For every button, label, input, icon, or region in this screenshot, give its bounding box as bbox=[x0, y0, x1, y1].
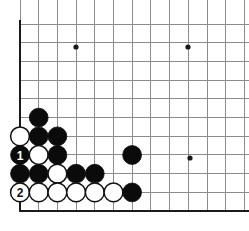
stone-white[interactable] bbox=[11, 127, 30, 146]
move-number-label: 2 bbox=[17, 186, 24, 200]
star-point-lower-right-icon bbox=[187, 155, 192, 160]
stone-black[interactable] bbox=[85, 164, 104, 183]
stone-black[interactable]: 1 bbox=[11, 146, 30, 165]
black-stone[interactable] bbox=[123, 146, 142, 165]
black-stone[interactable] bbox=[67, 164, 86, 183]
stone-black[interactable] bbox=[67, 164, 86, 183]
stone-black[interactable] bbox=[11, 164, 30, 183]
white-stone[interactable] bbox=[104, 183, 123, 202]
white-stone[interactable] bbox=[29, 183, 48, 202]
black-stone[interactable] bbox=[29, 108, 48, 127]
stone-black[interactable] bbox=[29, 108, 48, 127]
stone-white[interactable] bbox=[48, 183, 67, 202]
black-stone[interactable] bbox=[48, 127, 67, 146]
white-stone[interactable] bbox=[48, 164, 67, 183]
stone-black[interactable] bbox=[48, 146, 67, 165]
black-stone[interactable] bbox=[85, 164, 104, 183]
stone-white[interactable]: 2 bbox=[11, 183, 30, 202]
white-stone[interactable] bbox=[85, 183, 104, 202]
star-point-right-icon bbox=[185, 44, 190, 49]
goban-canvas[interactable]: 12 bbox=[0, 0, 249, 231]
stone-black[interactable] bbox=[29, 127, 48, 146]
white-stone[interactable] bbox=[48, 183, 67, 202]
white-stone[interactable] bbox=[11, 127, 30, 146]
star-point-left-icon bbox=[73, 44, 78, 49]
stone-white[interactable] bbox=[85, 183, 104, 202]
black-stone[interactable] bbox=[29, 164, 48, 183]
stone-black[interactable] bbox=[123, 183, 142, 202]
stone-black[interactable] bbox=[48, 127, 67, 146]
stone-white[interactable] bbox=[48, 164, 67, 183]
black-stone[interactable] bbox=[123, 183, 142, 202]
white-stone[interactable] bbox=[67, 183, 86, 202]
stone-white[interactable] bbox=[67, 183, 86, 202]
white-stone[interactable] bbox=[29, 146, 48, 165]
stone-white[interactable] bbox=[29, 146, 48, 165]
go-board-diagram: 12 bbox=[0, 0, 249, 231]
move-number-label: 1 bbox=[17, 149, 24, 163]
black-stone[interactable] bbox=[11, 164, 30, 183]
black-stone[interactable] bbox=[48, 146, 67, 165]
stone-black[interactable] bbox=[29, 164, 48, 183]
stone-white[interactable] bbox=[104, 183, 123, 202]
stone-black[interactable] bbox=[123, 146, 142, 165]
stone-white[interactable] bbox=[29, 183, 48, 202]
black-stone[interactable] bbox=[29, 127, 48, 146]
